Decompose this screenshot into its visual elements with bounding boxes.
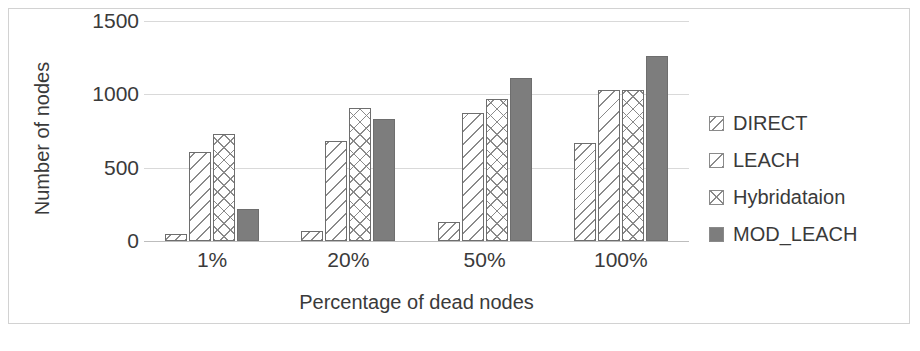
x-axis-title: Percentage of dead nodes (144, 291, 689, 314)
legend-label-LEACH: LEACH (733, 149, 800, 172)
legend-label-MOD_LEACH: MOD_LEACH (733, 223, 857, 246)
y-axis-title: Number of nodes (31, 54, 54, 224)
bar-LEACH-1%[interactable] (189, 152, 211, 241)
bar-group-50% (438, 21, 532, 241)
plot-area (144, 21, 689, 241)
bar-Hybridataion-100%[interactable] (622, 90, 644, 241)
y-tick-label-1000: 1000 (69, 83, 139, 104)
legend-item-MOD_LEACH[interactable]: MOD_LEACH (709, 216, 909, 253)
chart-frame: Number of nodes 050010001500 1%20%50%100… (8, 8, 910, 324)
legend-swatch-icon-MOD_LEACH (709, 227, 724, 242)
legend-swatch-icon-Hybridataion (709, 190, 724, 205)
axis-baseline (144, 241, 689, 242)
legend-swatch-icon-DIRECT (709, 116, 724, 131)
bar-MOD_LEACH-50%[interactable] (510, 78, 532, 241)
bar-DIRECT-100%[interactable] (574, 143, 596, 241)
bar-Hybridataion-1%[interactable] (213, 134, 235, 241)
y-axis-tick-labels: 050010001500 (67, 9, 139, 325)
bar-DIRECT-50%[interactable] (438, 222, 460, 241)
bar-DIRECT-20%[interactable] (301, 231, 323, 241)
bar-Hybridataion-50%[interactable] (486, 99, 508, 241)
x-tick-label-50%: 50% (417, 249, 553, 270)
bar-group-100% (574, 21, 668, 241)
x-tick-label-20%: 20% (280, 249, 416, 270)
y-tick-label-500: 500 (69, 157, 139, 178)
legend-item-LEACH[interactable]: LEACH (709, 142, 909, 179)
legend-item-Hybridataion[interactable]: Hybridataion (709, 179, 909, 216)
x-axis-tick-labels: 1%20%50%100% (144, 249, 689, 283)
bar-DIRECT-1%[interactable] (165, 234, 187, 241)
legend: DIRECTLEACHHybridataionMOD_LEACH (709, 105, 909, 253)
bar-Hybridataion-20%[interactable] (349, 108, 371, 241)
legend-label-Hybridataion: Hybridataion (733, 186, 845, 209)
plot-inner (144, 21, 689, 241)
legend-swatch-icon-LEACH (709, 153, 724, 168)
y-tick-label-0: 0 (69, 230, 139, 251)
bar-LEACH-20%[interactable] (325, 141, 347, 241)
bar-group-1% (165, 21, 259, 241)
legend-label-DIRECT: DIRECT (733, 112, 807, 135)
bar-MOD_LEACH-20%[interactable] (373, 119, 395, 241)
bar-MOD_LEACH-100%[interactable] (646, 56, 668, 241)
x-tick-label-1%: 1% (144, 249, 280, 270)
bar-LEACH-100%[interactable] (598, 90, 620, 241)
legend-item-DIRECT[interactable]: DIRECT (709, 105, 909, 142)
y-tick-label-1500: 1500 (69, 10, 139, 31)
bar-MOD_LEACH-1%[interactable] (237, 209, 259, 241)
bar-group-20% (301, 21, 395, 241)
x-tick-label-100%: 100% (553, 249, 689, 270)
bar-LEACH-50%[interactable] (462, 113, 484, 241)
